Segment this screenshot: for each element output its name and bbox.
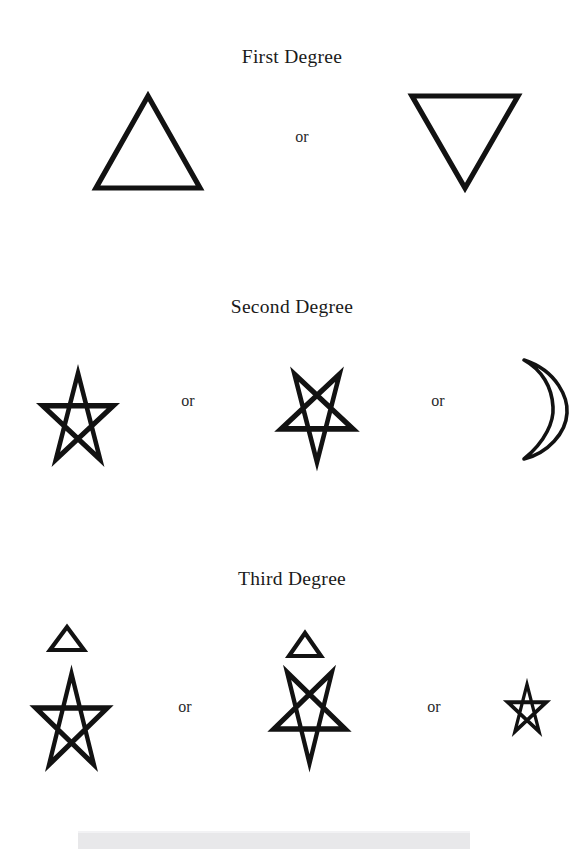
scanner-edge-band [78,831,470,849]
inverted-pentagram-icon [274,672,345,763]
figure-downward-triangle [408,92,522,192]
crescent-moon-icon [512,355,574,463]
upward-triangle-icon [92,92,204,192]
triangle-over-upright-pentagram-icon [12,624,142,772]
small-triangle-up-icon [289,633,321,656]
small-upright-pentagram-icon [496,674,558,734]
figure-upright-pentagram [18,355,138,463]
figure-triangle-over-inverted-pentagram [250,630,380,780]
section-heading-first-degree: First Degree [0,46,584,68]
or-label-third-degree-2: or [414,698,454,716]
or-label-second-degree-2: or [418,392,458,410]
or-label-first-degree-1: or [282,128,322,146]
section-heading-second-degree: Second Degree [0,296,584,318]
figure-upward-triangle [92,92,204,192]
figure-crescent-moon [512,355,574,463]
small-triangle-up-icon [50,627,84,650]
inverted-pentagram-icon [258,355,376,465]
clipped-header-text: · · · [0,0,584,2]
figure-small-upright-pentagram [496,674,558,734]
upright-pentagram-icon [36,674,107,765]
document-page: · · · First Degree or Second Degree or o… [0,0,584,849]
figure-triangle-over-upright-pentagram [12,624,142,772]
figure-inverted-pentagram [258,355,376,465]
or-label-third-degree-1: or [165,698,205,716]
or-label-second-degree-1: or [168,392,208,410]
triangle-over-inverted-pentagram-icon [250,630,380,780]
upright-pentagram-icon [18,355,138,463]
section-heading-third-degree: Third Degree [0,568,584,590]
downward-triangle-icon [408,92,522,192]
